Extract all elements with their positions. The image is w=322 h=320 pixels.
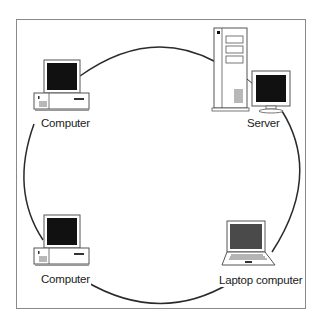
edge-computer-computer — [24, 124, 43, 240]
edge-computer-server — [80, 47, 216, 76]
desktop-computer-icon — [34, 215, 89, 266]
node-label-server: Server — [246, 117, 281, 130]
edge-server-laptop — [272, 111, 300, 252]
node-label-computer-bottom: Computer — [40, 273, 91, 286]
laptop-icon — [222, 221, 275, 265]
server-tower-icon — [212, 28, 249, 111]
edge-laptop-computer — [85, 281, 230, 304]
node-label-laptop: Laptop computer — [218, 274, 303, 287]
ring-network-diagram — [0, 0, 322, 320]
server-monitor-icon — [252, 71, 290, 113]
desktop-computer-icon — [34, 60, 89, 111]
node-label-computer-top: Computer — [40, 117, 91, 130]
